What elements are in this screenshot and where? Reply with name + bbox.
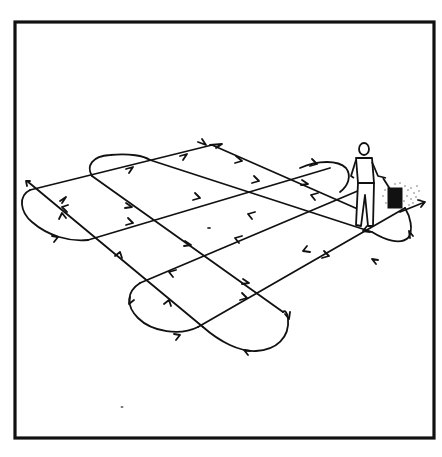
person-legs bbox=[356, 183, 374, 226]
path-line-a1 bbox=[27, 181, 203, 327]
stray-mark bbox=[207, 227, 211, 229]
path-line-a3 bbox=[150, 160, 372, 232]
person-arm-left bbox=[351, 160, 356, 178]
direction-arrows bbox=[26, 139, 413, 355]
path-line-b1 bbox=[30, 145, 212, 190]
turn-loop-left bbox=[22, 190, 88, 240]
spreader-handle bbox=[383, 178, 390, 189]
path-line-b3 bbox=[140, 190, 360, 283]
spreader bbox=[388, 188, 402, 208]
stray-mark bbox=[121, 406, 124, 408]
illustration-canvas bbox=[0, 0, 442, 457]
path-line-b4 bbox=[198, 208, 405, 327]
person-head bbox=[359, 143, 369, 155]
heading-arrow-icon bbox=[400, 200, 425, 212]
turn-loop-bottom-left bbox=[129, 283, 198, 332]
illustration-frame bbox=[15, 22, 434, 438]
turn-loop-right-lower bbox=[372, 208, 411, 241]
person-torso bbox=[356, 158, 374, 183]
path-line-a2 bbox=[92, 176, 283, 312]
person-with-spreader bbox=[351, 143, 425, 226]
